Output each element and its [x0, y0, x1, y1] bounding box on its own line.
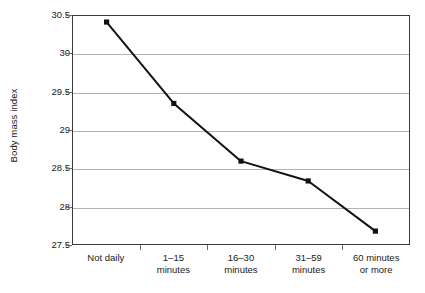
data-point-marker [104, 19, 109, 24]
chart-figure: Body mass index 30.53029.52928.52827.5 N… [0, 0, 425, 293]
x-axis-tickmark [140, 245, 141, 250]
x-axis-category-label: 60 minutesor more [342, 252, 410, 276]
y-axis-tickmark [66, 92, 72, 93]
y-axis-tick-label: 27.5 [30, 240, 70, 250]
x-axis-category-label-line2: minutes [140, 264, 208, 276]
y-axis-tickmark [66, 168, 72, 169]
x-axis-category-label-line2: minutes [207, 264, 275, 276]
x-axis-category-label: Not daily [72, 252, 140, 264]
y-axis-title-text: Body mass index [9, 88, 20, 162]
y-axis-tick-label: 29 [30, 125, 70, 135]
series-line [107, 22, 376, 231]
x-axis-category-label-line2: or more [342, 264, 410, 276]
x-axis-tickmark [342, 245, 343, 250]
plot-area [72, 15, 410, 245]
y-axis-tick-label: 30.5 [30, 10, 70, 20]
x-axis-category-label-line1: 16–30 [228, 252, 254, 263]
y-axis-tick-label: 28.5 [30, 163, 70, 173]
x-axis-category-label-line1: 1–15 [163, 252, 184, 263]
x-axis-category-label-line1: 60 minutes [353, 252, 399, 263]
x-axis-tick-labels: Not daily1–15minutes16–30minutes31–59min… [72, 252, 410, 292]
x-axis-category-label-line1: 31–59 [295, 252, 321, 263]
x-axis-tickmark [275, 245, 276, 250]
data-point-marker [373, 229, 378, 234]
y-axis-tickmark [66, 15, 72, 16]
data-point-marker [238, 159, 243, 164]
y-axis-tickmark [66, 130, 72, 131]
y-axis-tick-label: 29.5 [30, 87, 70, 97]
y-axis-tickmark [66, 207, 72, 208]
x-axis-category-label-line1: Not daily [87, 252, 124, 263]
series-line-chart [73, 16, 409, 244]
x-axis-category-label: 31–59minutes [275, 252, 343, 276]
data-point-marker [171, 101, 176, 106]
x-axis-tickmark [207, 245, 208, 250]
y-axis-tickmark [66, 245, 72, 246]
y-axis-tick-labels: 30.53029.52928.52827.5 [26, 0, 70, 293]
data-point-marker [306, 178, 311, 183]
y-axis-tick-label: 30 [30, 48, 70, 58]
y-axis-tick-label: 28 [30, 202, 70, 212]
y-axis-title: Body mass index [0, 0, 28, 250]
x-axis-category-label: 1–15minutes [140, 252, 208, 276]
y-axis-tickmark [66, 53, 72, 54]
x-axis-category-label: 16–30minutes [207, 252, 275, 276]
x-axis-category-label-line2: minutes [275, 264, 343, 276]
